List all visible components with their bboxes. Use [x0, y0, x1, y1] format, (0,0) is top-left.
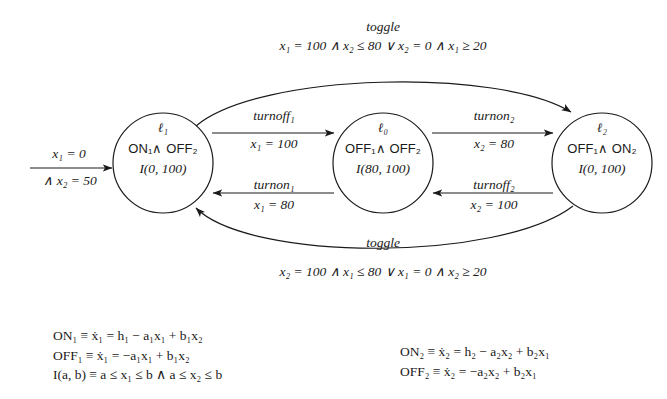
edge-label-event-turnon2: turnon₂	[474, 109, 515, 123]
state-location-l2: ℓ₂	[547, 120, 657, 136]
state-label-l1: ℓ₁ ON₁∧ OFF₂ I(0, 100)	[108, 120, 218, 177]
definition-invariant: I(a, b) ≡ a ≤ x₁ ≤ b ∧ a ≤ x₂ ≤ b	[53, 365, 222, 385]
initial-label-top: x₁ = 0	[52, 147, 85, 161]
edge-label-guard-turnon1: x₁ = 80	[254, 198, 294, 212]
state-label-l2: ℓ₂ OFF₁∧ ON₂ I(0, 100)	[547, 120, 657, 177]
state-invariant-l0: I(80, 100)	[328, 161, 438, 177]
edge-label-event-turnon1: turnon₁	[254, 178, 295, 192]
initial-label-bottom: ∧ x₂ = 50	[43, 174, 96, 188]
definition-off2: OFF₂ ≡ ẋ₂ = −a₂x₂ + b₂x₁	[400, 362, 550, 382]
state-mode-l0: OFF₁∧ OFF₂	[328, 141, 438, 156]
definition-on2: ON₂ ≡ ẋ₂ = h₂ − a₂x₂ + b₂x₁	[400, 342, 550, 362]
state-mode-l1: ON₁∧ OFF₂	[108, 141, 218, 156]
edge-label-event-turnoff1: turnoff₁	[253, 109, 294, 123]
state-location-l0: ℓ₀	[328, 120, 438, 136]
definitions-left: ON₁ ≡ ẋ₁ = h₁ − a₁x₁ + b₁x₂ OFF₁ ≡ ẋ₁ = …	[53, 326, 222, 385]
definition-on1: ON₁ ≡ ẋ₁ = h₁ − a₁x₁ + b₁x₂	[53, 326, 222, 346]
definition-off1: OFF₁ ≡ ẋ₁ = −a₁x₁ + b₁x₂	[53, 346, 222, 366]
definitions-right: ON₂ ≡ ẋ₂ = h₂ − a₂x₂ + b₂x₁ OFF₂ ≡ ẋ₂ = …	[400, 342, 550, 381]
edge-label-guard-turnon2: x₂ = 80	[474, 137, 514, 151]
state-label-l0: ℓ₀ OFF₁∧ OFF₂ I(80, 100)	[328, 120, 438, 177]
edge-label-event-bottom-toggle: toggle	[366, 236, 400, 250]
state-invariant-l2: I(0, 100)	[547, 161, 657, 177]
state-invariant-l1: I(0, 100)	[108, 161, 218, 177]
edge-label-guard-turnoff2: x₂ = 100	[471, 198, 518, 212]
edge-label-guard-top-toggle: x₁ = 100 ∧ x₂ ≤ 80 ∨ x₂ = 0 ∧ x₁ ≥ 20	[279, 39, 486, 53]
edge-label-event-top-toggle: toggle	[366, 20, 400, 34]
diagram-canvas: toggle x₁ = 100 ∧ x₂ ≤ 80 ∨ x₂ = 0 ∧ x₁ …	[0, 0, 667, 399]
state-location-l1: ℓ₁	[108, 120, 218, 136]
edge-label-event-turnoff2: turnoff₂	[473, 178, 514, 192]
state-mode-l2: OFF₁∧ ON₂	[547, 141, 657, 156]
edge-label-guard-bottom-toggle: x₂ = 100 ∧ x₁ ≤ 80 ∨ x₁ = 0 ∧ x₂ ≥ 20	[279, 265, 486, 279]
edge-label-guard-turnoff1: x₁ = 100	[251, 137, 298, 151]
